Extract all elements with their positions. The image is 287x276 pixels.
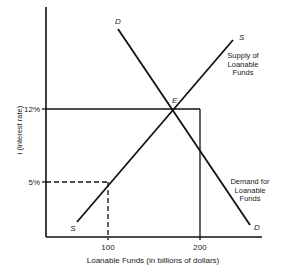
equilibrium-label: E	[172, 96, 178, 105]
supply-bottom-label: S	[70, 224, 76, 233]
supply-desc-line3: Funds	[233, 68, 254, 77]
loanable-funds-chart: 12% 5% 100 200 Loanable Funds (in billio…	[0, 0, 287, 276]
supply-desc-line1: Supply of	[227, 51, 259, 60]
supply-curve	[77, 40, 233, 222]
demand-top-label: D	[115, 17, 121, 26]
xtick-100-label: 100	[101, 243, 115, 252]
ytick-12-label: 12%	[24, 105, 40, 114]
y-axis-label: i (interest rate)	[15, 105, 24, 154]
demand-desc-line3: Funds	[240, 194, 261, 203]
demand-desc-line1: Demand for	[230, 177, 270, 186]
supply-top-label: S	[239, 33, 245, 42]
x-axis-label: Loanable Funds (in billions of dollars)	[87, 256, 220, 265]
demand-bottom-label: D	[254, 223, 260, 232]
xtick-200-label: 200	[193, 243, 207, 252]
ytick-5-label: 5%	[28, 178, 40, 187]
